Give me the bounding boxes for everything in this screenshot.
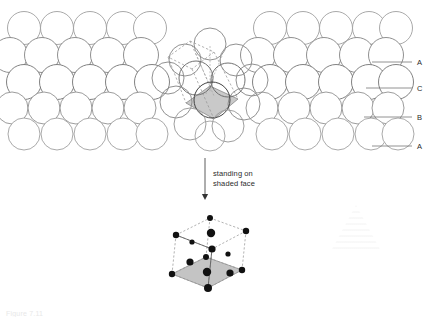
cell-edge-4 — [168, 57, 186, 103]
lattice-point-face-center-top-8 — [207, 229, 215, 237]
standing-on-annotation: standing on shaded face — [202, 158, 255, 200]
annotation-line-1: standing on — [213, 169, 253, 178]
lattice-point-face-center-left-12 — [186, 258, 193, 265]
lattice-point-corner-5 — [203, 254, 209, 260]
label-a-bottom: A — [417, 142, 422, 151]
lattice-point-corner-0 — [173, 232, 179, 238]
label-a-top: A — [417, 58, 422, 67]
cell-edge-0 — [168, 41, 190, 57]
lattice-point-corner-1 — [207, 215, 213, 221]
sphere-r4-c1 — [41, 118, 73, 150]
diagram-canvas: ACBA standing on shaded face — [0, 0, 435, 317]
lattice-point-face-center-bottom-9 — [203, 268, 211, 276]
figure-caption: Figure 7.11 — [6, 310, 43, 317]
cube-vertical-0 — [172, 235, 176, 274]
cube-top-edge-2 — [212, 231, 246, 249]
sphere-r4-c4 — [136, 118, 168, 150]
sphere-r4-c3 — [107, 118, 139, 150]
cluster-sphere-11 — [212, 110, 244, 142]
sphere-r4-c4 — [382, 118, 414, 150]
sphere-r4-c2 — [322, 118, 354, 150]
sphere-r4-c1 — [289, 118, 321, 150]
lattice-point-face-center-right-13 — [226, 269, 233, 276]
cube-top-edge-0 — [176, 218, 210, 235]
sphere-r4-c2 — [74, 118, 106, 150]
label-b: B — [417, 113, 422, 122]
cube-vertical-2 — [242, 231, 246, 270]
lattice-point-corner-4 — [169, 271, 175, 277]
lattice-point-corner-2 — [243, 228, 249, 234]
lattice-point-face-center-back-right-11 — [225, 251, 230, 256]
cluster-sphere-1 — [169, 44, 201, 76]
sphere-r4-c0 — [8, 118, 40, 150]
lattice-point-corner-3 — [208, 245, 215, 252]
figure-root: ACBA standing on shaded face Figure 7.11 — [0, 0, 435, 317]
cell-edge-5 — [190, 41, 210, 86]
fcc-unit-cell — [169, 215, 249, 292]
cluster-sphere-12 — [195, 121, 225, 151]
lattice-point-corner-6 — [239, 267, 245, 273]
sphere-r4-c0 — [256, 118, 288, 150]
close-packed-layers-right — [241, 12, 415, 151]
label-c: C — [417, 84, 423, 93]
lattice-point-face-center-back-left-10 — [189, 239, 194, 244]
close-packed-layers-left — [0, 12, 170, 151]
cube-top-edge-1 — [210, 218, 246, 231]
lattice-point-corner-7 — [204, 284, 212, 292]
arrow-head-icon — [202, 194, 208, 200]
annotation-line-2: shaded face — [213, 179, 255, 188]
cell-edge-2 — [192, 52, 214, 69]
